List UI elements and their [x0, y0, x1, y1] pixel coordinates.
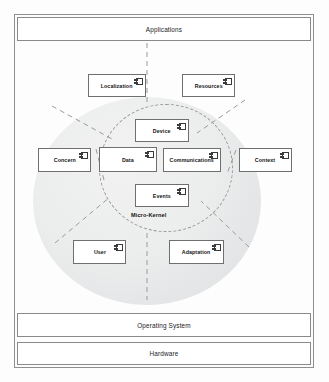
layer-label-applications: Applications — [146, 26, 182, 33]
component-resources[interactable]: Resources — [182, 74, 235, 97]
uml-component-icon — [211, 152, 218, 159]
component-label-user: User — [93, 249, 105, 255]
component-label-context: Context — [255, 157, 275, 163]
component-adaptation[interactable]: Adaptation — [169, 240, 224, 264]
uml-component-icon — [136, 78, 143, 85]
uml-component-icon — [147, 151, 154, 158]
uml-component-icon — [179, 123, 186, 130]
component-user[interactable]: User — [73, 240, 126, 264]
uml-component-icon — [225, 78, 232, 85]
component-events[interactable]: Events — [135, 184, 189, 207]
diagram-canvas: Applications Localization Resources Devi… — [0, 0, 329, 382]
component-communications[interactable]: Communications — [163, 148, 221, 172]
layer-label-hardware: Hardware — [150, 350, 179, 357]
component-label-communications: Communications — [170, 157, 214, 163]
uml-component-icon — [214, 244, 221, 251]
layer-banner-operating-system[interactable]: Operating System — [17, 313, 311, 337]
uml-component-icon — [282, 152, 289, 159]
layer-label-operating-system: Operating System — [137, 322, 191, 329]
uml-component-icon — [81, 152, 88, 159]
component-concern[interactable]: Concern — [38, 148, 91, 172]
component-context[interactable]: Context — [239, 148, 292, 172]
component-localization[interactable]: Localization — [88, 74, 146, 97]
component-device[interactable]: Device — [135, 119, 189, 142]
component-label-concern: Concern — [53, 157, 75, 163]
component-label-adaptation: Adaptation — [182, 249, 211, 255]
component-label-device: Device — [153, 127, 171, 133]
uml-component-icon — [179, 188, 186, 195]
component-data[interactable]: Data — [99, 147, 157, 172]
component-label-resources: Resources — [195, 82, 223, 88]
uml-component-icon — [116, 244, 123, 251]
component-label-data: Data — [122, 156, 134, 162]
layer-banner-hardware[interactable]: Hardware — [17, 342, 311, 365]
micro-kernel-caption: Micro-Kernel — [131, 212, 166, 218]
component-label-events: Events — [153, 192, 171, 198]
layer-banner-applications[interactable]: Applications — [17, 17, 311, 41]
component-label-localization: Localization — [101, 82, 133, 88]
